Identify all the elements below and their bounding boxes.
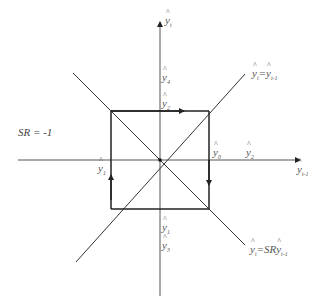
point-y2-right-label: y2: [246, 147, 254, 160]
point-y4-label: y4: [162, 72, 170, 85]
y-axis-label: yt: [165, 15, 172, 28]
cobweb-diagram: [0, 0, 327, 304]
origin-point: [158, 158, 162, 162]
point-y0-label: y0: [213, 147, 221, 160]
point-y3-label: y3: [162, 240, 170, 253]
sr-line-label: yt=SRyt-1: [250, 244, 288, 257]
sr-value-label: SR = -1: [18, 127, 52, 138]
x-axis-label: yt-1: [297, 164, 309, 177]
identity-line-label: yt=yt-1: [252, 68, 278, 81]
point-y2-top-label: y2: [162, 98, 170, 111]
point-y1-left-label: y1: [98, 163, 106, 176]
